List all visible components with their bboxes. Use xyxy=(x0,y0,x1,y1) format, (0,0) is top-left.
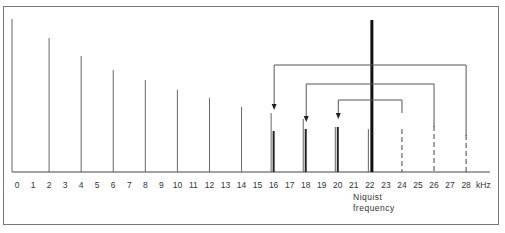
x-tick-label: 27 xyxy=(445,180,455,190)
arrowhead-icon xyxy=(304,116,309,122)
x-tick-label: 2 xyxy=(47,180,52,190)
x-tick-label: 8 xyxy=(143,180,148,190)
nyquist-annotation: frequency xyxy=(353,203,395,213)
x-tick-label: 17 xyxy=(285,180,295,190)
x-tick-label: 5 xyxy=(95,180,100,190)
x-tick-label: 21 xyxy=(349,180,359,190)
x-tick-label: 16 xyxy=(269,180,279,190)
x-tick-label: 20 xyxy=(333,180,343,190)
x-unit-label: kHz xyxy=(476,180,491,190)
x-tick-label: 6 xyxy=(111,180,116,190)
x-tick-label: 7 xyxy=(127,180,132,190)
x-tick-label: 9 xyxy=(159,180,164,190)
x-tick-label: 13 xyxy=(221,180,231,190)
x-tick-label: 4 xyxy=(79,180,84,190)
fold-bracket xyxy=(306,84,434,127)
x-tick-label: 18 xyxy=(301,180,311,190)
x-tick-label: 14 xyxy=(237,180,247,190)
x-tick-label: 23 xyxy=(381,180,391,190)
arrowhead-icon xyxy=(272,104,277,110)
x-tick-label: 1 xyxy=(31,180,36,190)
x-tick-label: 0 xyxy=(15,180,20,190)
nyquist-annotation: Niquist xyxy=(353,192,383,202)
x-tick-label: 11 xyxy=(189,180,198,190)
spectrum-diagram: 0123456789101112131415161718192021222324… xyxy=(0,0,505,233)
x-tick-label: 19 xyxy=(317,180,327,190)
fold-bracket xyxy=(338,100,402,114)
x-tick-label: 26 xyxy=(429,180,439,190)
x-tick-label: 24 xyxy=(397,180,407,190)
x-tick-label: 15 xyxy=(253,180,263,190)
arrowhead-icon xyxy=(336,113,341,119)
x-tick-label: 3 xyxy=(63,180,68,190)
x-tick-label: 12 xyxy=(205,180,215,190)
x-tick-label: 10 xyxy=(173,180,183,190)
x-tick-label: 22 xyxy=(365,180,375,190)
x-tick-label: 25 xyxy=(413,180,423,190)
x-tick-label: 28 xyxy=(461,180,471,190)
